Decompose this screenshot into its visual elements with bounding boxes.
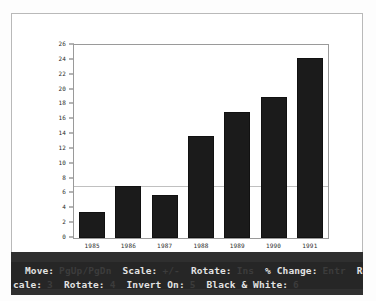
- status-key-binding: +/-: [162, 265, 179, 276]
- x-axis-tick-label: 1990: [257, 242, 291, 250]
- y-axis-tick-label: 2: [62, 219, 66, 225]
- bar-slot[interactable]: [224, 45, 250, 238]
- y-axis-tick-label: 0: [62, 234, 66, 240]
- y-axis-tick-label: 16: [58, 115, 66, 121]
- y-axis-tick-label: 20: [58, 86, 66, 92]
- bar[interactable]: [152, 195, 178, 238]
- status-bar-line-1: Move:PgUp/PgDnScale:+/-Rotate:Ins% Chang…: [11, 264, 363, 278]
- y-axis-tick-label: 8: [62, 175, 66, 181]
- bar[interactable]: [188, 136, 214, 238]
- y-axis-tick-label: 24: [58, 56, 66, 62]
- status-key-label: Scale:: [123, 265, 158, 276]
- y-axis-tick-label: 14: [58, 130, 66, 136]
- status-bar: Move:PgUp/PgDnScale:+/-Rotate:Ins% Chang…: [11, 252, 363, 295]
- status-key-label: % Change:: [265, 265, 317, 276]
- status-key-label: Reset: [357, 265, 363, 276]
- y-axis-tick-label: 4: [62, 204, 66, 210]
- bar-slot[interactable]: [297, 45, 323, 238]
- bar[interactable]: [79, 212, 105, 238]
- status-key-binding: Ins: [237, 265, 254, 276]
- x-axis-tick-label: 1989: [220, 242, 254, 250]
- status-key-binding: PgUp/PgDn: [59, 265, 111, 276]
- x-axis-tick-label: 1991: [293, 242, 327, 250]
- y-axis-tick-label: 6: [62, 189, 66, 195]
- status-key-label: Move:: [25, 265, 54, 276]
- x-axis-tick-label: 1985: [75, 242, 109, 250]
- y-axis-tick-label: 18: [58, 100, 66, 106]
- x-axis-tick-label: 1988: [184, 242, 218, 250]
- bar-slot[interactable]: [115, 45, 141, 238]
- application-window: 02468101214161820222426 1985198619871988…: [0, 0, 376, 301]
- bar[interactable]: [297, 58, 323, 238]
- bar[interactable]: [224, 112, 250, 238]
- x-axis-tick-label: 1986: [111, 242, 145, 250]
- status-key-label: Rotate:: [191, 265, 232, 276]
- x-axis-tick-label: 1987: [148, 242, 182, 250]
- y-axis-tick-label: 12: [58, 145, 66, 151]
- chart-page-frame: 02468101214161820222426 1985198619871988…: [11, 13, 363, 288]
- bar-series: [73, 44, 329, 238]
- y-axis: 02468101214161820222426: [52, 40, 74, 243]
- bar[interactable]: [261, 97, 287, 238]
- bar-slot[interactable]: [188, 45, 214, 238]
- y-axis-tick-label: 10: [58, 160, 66, 166]
- bar-slot[interactable]: [79, 45, 105, 238]
- bar-slot[interactable]: [152, 45, 178, 238]
- bar[interactable]: [115, 186, 141, 238]
- y-axis-tick-label: 26: [58, 41, 66, 47]
- status-bar-bottom-shade: [11, 289, 363, 295]
- status-key-binding: Entr: [323, 265, 346, 276]
- status-bar-top-shade: [11, 252, 363, 262]
- bar-slot[interactable]: [261, 45, 287, 238]
- y-axis-tick-label: 22: [58, 71, 66, 77]
